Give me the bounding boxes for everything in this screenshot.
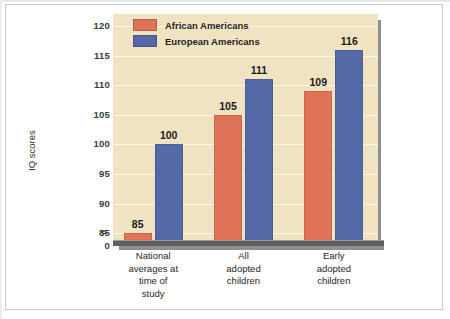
category-label-line: All xyxy=(196,250,292,263)
y-tick-label-95: 95 xyxy=(76,168,110,179)
category-label-line: averages at xyxy=(105,263,201,276)
category-label-0: Nationalaverages attime ofstudy xyxy=(105,250,201,300)
legend-item-european-americans[interactable]: European Americans xyxy=(133,35,260,47)
bar-chart: 85100105111109116 0859095100105110115120… xyxy=(0,0,450,319)
category-label-line: study xyxy=(105,288,201,301)
figure-root: 85100105111109116 0859095100105110115120… xyxy=(0,0,450,319)
y-tick-label-120: 120 xyxy=(76,20,110,31)
category-label-line: time of xyxy=(105,275,201,288)
bar-value-label-1-1: 111 xyxy=(239,64,279,76)
legend-item-african-americans[interactable]: African Americans xyxy=(133,19,260,31)
category-label-line: children xyxy=(196,275,292,288)
bar-value-label-0-0: 85 xyxy=(118,218,158,230)
category-label-line: adopted xyxy=(196,263,292,276)
bars-layer: 85100105111109116 xyxy=(113,14,378,245)
bar-value-label-2-0: 109 xyxy=(298,76,338,88)
bar-1-1[interactable] xyxy=(245,79,273,245)
bar-2-1[interactable] xyxy=(335,50,363,246)
bar-value-label-1-0: 105 xyxy=(208,100,248,112)
y-tick-label-105: 105 xyxy=(76,109,110,120)
bar-value-label-0-1: 100 xyxy=(149,129,189,141)
legend-swatch-european-americans xyxy=(133,35,157,47)
legend-label-african-americans: African Americans xyxy=(165,20,249,31)
y-axis-title: IQ scores xyxy=(26,106,37,196)
legend-swatch-african-americans xyxy=(133,19,157,31)
bar-1-0[interactable] xyxy=(214,115,242,245)
y-axis-ticks: 0859095100105110115120 xyxy=(70,0,110,260)
y-tick-label-90: 90 xyxy=(76,198,110,209)
bar-value-label-2-1: 116 xyxy=(329,35,369,47)
bar-0-1[interactable] xyxy=(155,144,183,245)
x-axis-category-labels: Nationalaverages attime ofstudyAlladopte… xyxy=(113,250,384,312)
x-axis-baseline xyxy=(113,240,384,246)
category-label-line: adopted xyxy=(286,263,382,276)
y-tick-label-110: 110 xyxy=(76,79,110,90)
category-label-1: Alladoptedchildren xyxy=(196,250,292,288)
y-tick-label-115: 115 xyxy=(76,50,110,61)
bar-2-0[interactable] xyxy=(304,91,332,245)
category-label-2: Earlyadoptedchildren xyxy=(286,250,382,288)
category-label-line: Early xyxy=(286,250,382,263)
legend: African Americans European Americans xyxy=(133,19,260,47)
legend-label-european-americans: European Americans xyxy=(165,36,260,47)
category-label-line: children xyxy=(286,275,382,288)
y-tick-label-100: 100 xyxy=(76,138,110,149)
category-label-line: National xyxy=(105,250,201,263)
